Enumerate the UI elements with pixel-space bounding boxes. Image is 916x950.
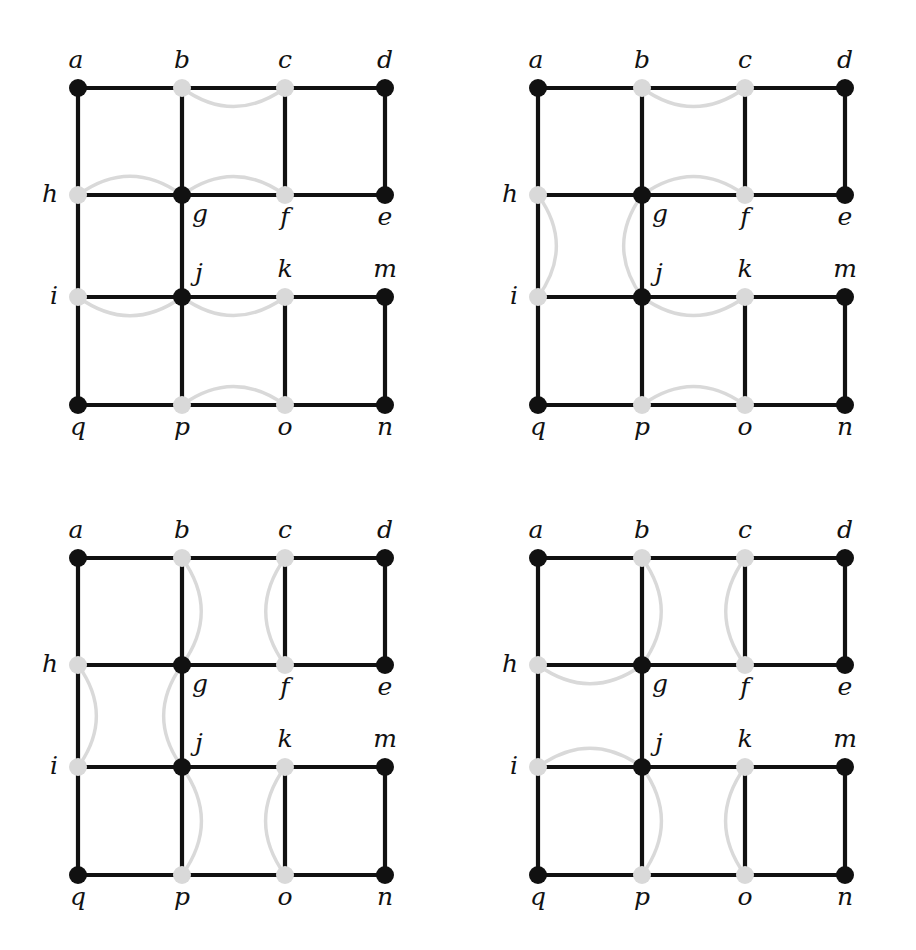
node-label-g: g <box>652 669 668 698</box>
node-i <box>69 288 87 306</box>
node-h <box>529 186 547 204</box>
node-m <box>376 288 394 306</box>
node-a <box>529 79 547 97</box>
node-g <box>173 656 191 674</box>
node-label-d: d <box>837 515 853 544</box>
node-label-i: i <box>510 281 518 310</box>
node-d <box>376 549 394 567</box>
node-label-b: b <box>174 45 190 74</box>
node-label-d: d <box>377 45 393 74</box>
node-label-q: q <box>530 412 546 441</box>
node-label-m: m <box>373 254 397 283</box>
node-a <box>69 549 87 567</box>
node-label-n: n <box>837 882 853 911</box>
panel-2: abcdhgfeijkmqpon <box>460 0 910 470</box>
node-d <box>836 549 854 567</box>
node-k <box>276 758 294 776</box>
graph-figure: abcdhgfeijkmqponabcdhgfeijkmqponabcdhgfe… <box>0 0 916 950</box>
arc-h-g <box>538 665 642 684</box>
node-label-o: o <box>277 412 292 441</box>
arc-j-p <box>182 767 201 875</box>
node-label-o: o <box>277 882 292 911</box>
node-label-m: m <box>373 724 397 753</box>
node-label-b: b <box>634 515 650 544</box>
node-label-q: q <box>70 882 86 911</box>
node-m <box>836 758 854 776</box>
panel-1-canvas: abcdhgfeijkmqpon <box>0 0 450 470</box>
node-label-p: p <box>634 412 650 441</box>
node-h <box>529 656 547 674</box>
node-label-e: e <box>378 672 393 701</box>
node-b <box>633 79 651 97</box>
node-d <box>376 79 394 97</box>
node-c <box>276 549 294 567</box>
panel-1-edge-group <box>78 88 385 405</box>
node-label-c: c <box>738 515 752 544</box>
node-label-j: j <box>650 728 663 757</box>
arc-b-c <box>182 88 285 107</box>
panel-4-edge-group <box>538 558 845 875</box>
arc-g-j <box>164 665 182 767</box>
arc-j-k <box>642 297 745 316</box>
node-label-p: p <box>174 412 190 441</box>
panel-4-label-group: abcdhgfeijkmqpon <box>502 515 857 911</box>
arc-b-g <box>642 558 661 665</box>
panel-2-canvas: abcdhgfeijkmqpon <box>460 0 910 470</box>
arc-b-c <box>642 88 745 107</box>
node-label-i: i <box>50 751 58 780</box>
node-label-i: i <box>50 281 58 310</box>
node-label-j: j <box>650 258 663 287</box>
node-label-a: a <box>529 45 544 74</box>
node-k <box>736 758 754 776</box>
arc-c-f <box>726 558 745 665</box>
node-label-n: n <box>377 882 393 911</box>
node-k <box>736 288 754 306</box>
node-b <box>633 549 651 567</box>
node-h <box>69 656 87 674</box>
node-label-b: b <box>174 515 190 544</box>
node-label-g: g <box>192 199 208 228</box>
panel-2-edge-group <box>538 88 845 405</box>
panel-4: abcdhgfeijkmqpon <box>460 470 910 940</box>
node-c <box>736 79 754 97</box>
panel-3: abcdhgfeijkmqpon <box>0 470 450 940</box>
node-label-k: k <box>737 724 752 753</box>
node-c <box>276 79 294 97</box>
node-label-c: c <box>738 45 752 74</box>
arc-j-p <box>642 767 661 875</box>
arc-p-o <box>642 386 745 405</box>
node-label-g: g <box>652 199 668 228</box>
panel-3-canvas: abcdhgfeijkmqpon <box>0 470 450 940</box>
node-j <box>173 758 191 776</box>
node-label-m: m <box>833 254 857 283</box>
arc-k-o <box>726 767 745 875</box>
node-label-k: k <box>277 254 292 283</box>
panel-2-node-group <box>529 79 854 414</box>
node-k <box>276 288 294 306</box>
node-label-o: o <box>737 412 752 441</box>
node-label-q: q <box>530 882 546 911</box>
arc-h-i <box>78 665 96 767</box>
node-j <box>173 288 191 306</box>
arc-c-f <box>266 558 285 665</box>
node-label-f: f <box>278 202 293 231</box>
node-label-d: d <box>377 515 393 544</box>
node-label-d: d <box>837 45 853 74</box>
panel-1: abcdhgfeijkmqpon <box>0 0 450 470</box>
node-g <box>173 186 191 204</box>
node-j <box>633 288 651 306</box>
node-label-f: f <box>738 202 753 231</box>
panel-3-edge-group <box>78 558 385 875</box>
arc-h-i <box>538 195 556 297</box>
node-label-h: h <box>42 179 58 208</box>
node-label-j: j <box>190 258 203 287</box>
node-label-n: n <box>837 412 853 441</box>
node-label-m: m <box>833 724 857 753</box>
node-b <box>173 549 191 567</box>
arc-i-j <box>78 297 182 316</box>
node-label-c: c <box>278 515 292 544</box>
node-a <box>529 549 547 567</box>
node-label-h: h <box>502 179 518 208</box>
node-label-b: b <box>634 45 650 74</box>
node-g <box>633 656 651 674</box>
